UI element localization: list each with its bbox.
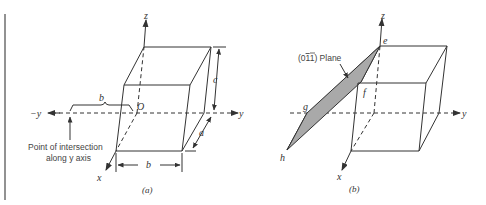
y-label-a: y <box>238 108 244 119</box>
b-brace <box>70 102 133 111</box>
unit-cell-a <box>124 47 211 85</box>
x-axis-b <box>342 151 351 170</box>
neg-y-label: −y <box>30 108 42 119</box>
z-axis-b <box>380 19 382 46</box>
x-axis-a <box>106 151 116 170</box>
annotation-line1: Point of intersection <box>28 142 103 152</box>
b-bottom-label: b <box>146 159 151 170</box>
y-label-b: y <box>461 108 467 119</box>
x-label-a: x <box>96 172 102 183</box>
a-label: a <box>199 127 204 138</box>
unit-cell-a-front <box>116 85 190 151</box>
vertex-g: g <box>303 101 308 112</box>
z-label-b: z <box>380 10 385 21</box>
plane-label-leader <box>340 64 348 78</box>
panel-b <box>287 19 460 170</box>
z-axis-a <box>144 20 146 47</box>
z-label-a: z <box>143 10 148 21</box>
origin-label: O <box>137 101 144 112</box>
c-label: c <box>213 74 218 85</box>
unit-cell-b-back-right <box>439 46 447 113</box>
vertex-f: f <box>363 87 367 98</box>
b-top-label: b <box>99 92 104 103</box>
vertex-e: e <box>383 35 388 46</box>
x-label-b: x <box>336 171 342 182</box>
x-axis-a-dashed <box>116 113 137 151</box>
caption-b: (b) <box>349 184 360 194</box>
crystal-plane-diagram: z y −y x O c a b b Point of intersection… <box>0 0 486 205</box>
vertex-h: h <box>280 152 285 163</box>
caption-a: (a) <box>142 185 153 195</box>
annotation-line2: along y axis <box>46 153 91 163</box>
unit-cell-b <box>358 46 447 83</box>
plane-label: (011) Plane <box>298 53 342 63</box>
